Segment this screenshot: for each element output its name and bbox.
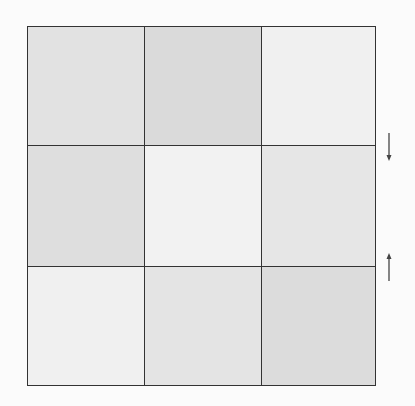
grid-cell-r2-c2	[145, 146, 262, 267]
grid-cell-r2-c1	[28, 146, 145, 267]
grid-cell-r1-c3	[262, 27, 375, 146]
grid-cell-r2-c3	[262, 146, 375, 267]
grid-cell-r3-c1	[28, 267, 145, 385]
grid-3x3	[27, 26, 376, 386]
grid-cell-r3-c2	[145, 267, 262, 385]
grid-cell-r1-c2	[145, 27, 262, 146]
up-arrow-icon	[384, 251, 394, 281]
grid-cell-r1-c1	[28, 27, 145, 146]
grid-cell-r3-c3	[262, 267, 375, 385]
down-arrow-icon	[384, 133, 394, 163]
